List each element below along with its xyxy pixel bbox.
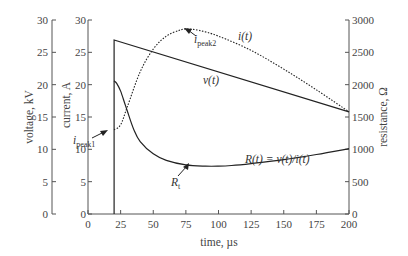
voltage-tick-label: 25 xyxy=(37,46,49,58)
voltage-tick-label: 5 xyxy=(43,176,49,188)
voltage-axis-title: voltage, kV xyxy=(23,89,36,143)
label-v-t: v(t) xyxy=(203,74,219,87)
x-axis-title: time, µs xyxy=(200,236,238,249)
current-tick-label: 30 xyxy=(75,14,87,26)
x-tick-label: 25 xyxy=(115,218,127,230)
voltage-tick-label: 30 xyxy=(37,14,49,26)
resistance-tick-label: 500 xyxy=(352,176,369,188)
current-tick-label: 25 xyxy=(75,46,87,58)
current-tick-label: 20 xyxy=(75,79,87,91)
series-current-line xyxy=(114,29,349,130)
x-tick-label: 100 xyxy=(210,218,227,230)
voltage-tick-label: 15 xyxy=(37,111,49,123)
voltage-tick-label: 10 xyxy=(37,143,49,155)
label-r-formula: R(t) = v(t)/i(t) xyxy=(244,153,310,166)
voltage-tick-label: 0 xyxy=(43,208,49,220)
resistance-tick-label: 2000 xyxy=(352,79,375,91)
resistance-axis-title: resistance, Ω xyxy=(377,87,390,147)
chart: 0510152025300510152025300255075100125150… xyxy=(0,0,408,256)
resistance-tick-label: 0 xyxy=(352,208,358,220)
x-tick-label: 175 xyxy=(308,218,325,230)
series-resistance-line xyxy=(114,81,349,166)
resistance-tick-label: 1500 xyxy=(352,111,375,123)
series-voltage-line xyxy=(114,40,349,214)
x-tick-label: 75 xyxy=(180,218,192,230)
current-tick-label: 5 xyxy=(81,176,87,188)
x-tick-label: 50 xyxy=(148,218,160,230)
resistance-tick-label: 2500 xyxy=(352,46,375,58)
arrow-i-peak1-icon xyxy=(92,130,108,138)
resistance-tick-label: 1000 xyxy=(352,143,375,155)
voltage-tick-label: 20 xyxy=(37,79,49,91)
x-tick-label: 0 xyxy=(85,218,91,230)
label-i-t: i(t) xyxy=(238,30,252,43)
x-tick-label: 150 xyxy=(276,218,293,230)
series xyxy=(114,29,349,214)
label-i-peak1: ipeak1 xyxy=(73,134,95,149)
resistance-tick-label: 3000 xyxy=(352,14,375,26)
label-r-t: Rt xyxy=(170,176,181,191)
annotations: time, µs voltage, kV current, A resistan… xyxy=(23,28,390,249)
current-axis-title: current, A xyxy=(60,81,73,128)
current-tick-label: 15 xyxy=(75,111,87,123)
label-i-peak2: ipeak2 xyxy=(194,33,216,48)
x-tick-label: 125 xyxy=(243,218,260,230)
